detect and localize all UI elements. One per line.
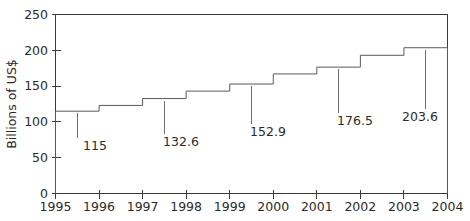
x-tick-label-2004: 2004 (432, 199, 464, 214)
value-label-176-5: 176.5 (337, 113, 373, 128)
x-tick-label-2000: 2000 (257, 199, 289, 214)
value-labels: 115 132.6 152.9 176.5 203.6 (83, 109, 438, 153)
x-tick-label-2002: 2002 (344, 199, 376, 214)
y-tick-label-100: 100 (24, 114, 48, 129)
x-axis-tick-labels: 1995 1996 1997 1998 1999 2000 2001 2002 … (40, 199, 464, 214)
x-tick-label-1998: 1998 (170, 199, 202, 214)
y-tick-label-200: 200 (24, 43, 48, 58)
value-label-115: 115 (83, 138, 107, 153)
step-bar-chart: 250 200 150 100 50 0 Billions of US$ 199… (0, 0, 470, 221)
value-label-132-6: 132.6 (163, 134, 199, 149)
x-tick-label-1995: 1995 (40, 199, 72, 214)
y-tick-label-150: 150 (24, 78, 48, 93)
y-tick-label-250: 250 (24, 7, 48, 22)
x-tick-label-1999: 1999 (214, 199, 246, 214)
x-tick-label-2001: 2001 (301, 199, 333, 214)
y-axis-title: Billions of US$ (4, 59, 19, 149)
value-label-203-6: 203.6 (402, 109, 438, 124)
y-axis-tick-labels: 250 200 150 100 50 0 (24, 7, 48, 201)
x-tick-label-1997: 1997 (127, 199, 159, 214)
chart-canvas: 250 200 150 100 50 0 Billions of US$ 199… (0, 0, 470, 221)
x-tick-label-2003: 2003 (388, 199, 420, 214)
y-tick-label-50: 50 (32, 150, 48, 165)
x-tick-label-1996: 1996 (83, 199, 115, 214)
value-label-152-9: 152.9 (250, 124, 286, 139)
